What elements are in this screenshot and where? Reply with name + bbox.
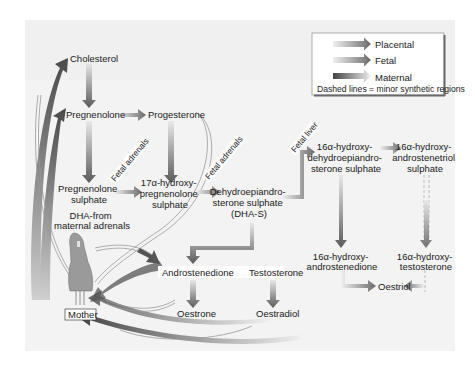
legend-fetal-label: Fetal	[375, 55, 396, 66]
node-16a-hydroxy-androstenedione: 16α-hydroxy- androstenedione	[307, 251, 378, 272]
legend: Placental Fetal Maternal Dashed lines = …	[312, 33, 465, 96]
legend-placental-label: Placental	[375, 39, 414, 50]
node-oestrone: Oestrone	[177, 308, 216, 319]
node-progesterone: Progesterone	[148, 109, 205, 120]
node-oestradiol: Oestradiol	[256, 308, 299, 319]
node-pregnenolone: Pregnenolone	[66, 109, 125, 120]
node-oestriol: Oestriol	[378, 281, 411, 292]
node-16a-hydroxy-testosterone: 16α-hydroxy- testosterone	[397, 251, 455, 272]
legend-note: Dashed lines = minor synthetic regions	[317, 84, 465, 94]
node-androstenedione: Androstenedione	[162, 267, 234, 278]
node-cholesterol: Cholesterol	[70, 53, 118, 64]
node-16a-hydroxy-dhas: 16α-hydroxy- dehydroepiandro- sterone su…	[307, 141, 384, 174]
node-testosterone: Testosterone	[249, 267, 303, 278]
legend-maternal-label: Maternal	[375, 72, 412, 83]
estrogen-synthesis-diagram: Placental Fetal Maternal Dashed lines = …	[0, 0, 475, 371]
mother-label: Mother	[68, 309, 98, 320]
